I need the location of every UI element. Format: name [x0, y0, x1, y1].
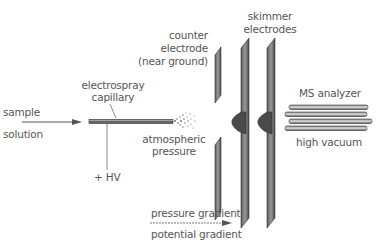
atmospheric-label: atmospheric — [140, 133, 208, 145]
sample-label: sample — [3, 106, 40, 118]
capillary-leader — [110, 104, 116, 118]
solution-label: solution — [3, 128, 43, 140]
electrospray-capillary — [89, 120, 173, 124]
skimmer-electrode-1 — [232, 38, 249, 228]
skimmer-electrode-2 — [258, 38, 275, 228]
electrodes-label: electrodes — [240, 23, 300, 35]
ms-analyzer-rods — [285, 105, 372, 131]
ms-analyzer-label: MS analyzer — [299, 87, 361, 99]
skimmer-label: skimmer — [240, 10, 300, 22]
counter-label: counter — [150, 29, 208, 41]
counter-electrode — [215, 47, 221, 220]
pressure-label: pressure — [140, 145, 208, 157]
gradient-arrow — [150, 220, 232, 226]
esi-diagram: sample solution electrospray capillary +… — [0, 0, 385, 247]
near-ground-label: (near ground) — [135, 55, 208, 67]
hv-label: + HV — [94, 171, 120, 183]
spray-plume — [174, 113, 195, 129]
potential-gradient-label: potential gradient — [151, 228, 242, 240]
electrode-label: electrode — [150, 42, 208, 54]
capillary-label: capillary — [78, 91, 148, 103]
high-vacuum-label: high vacuum — [296, 136, 362, 148]
sample-flow-arrow — [22, 119, 82, 125]
pressure-gradient-label: pressure gradient — [151, 207, 241, 219]
electrospray-label: electrospray — [78, 79, 148, 91]
